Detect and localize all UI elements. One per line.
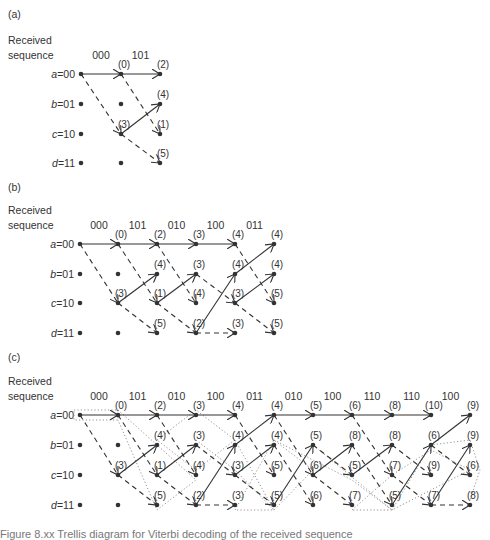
trellis-node — [390, 473, 395, 478]
trellis-node — [79, 161, 84, 166]
state-label: d=11 — [51, 499, 74, 511]
trellis-node — [116, 242, 121, 247]
path-metric: (8) — [389, 400, 401, 411]
path-metric: (8) — [349, 430, 361, 441]
trellis-node — [119, 102, 124, 107]
branch-input1 — [118, 303, 157, 333]
trellis-node — [272, 473, 277, 478]
trellis-node — [194, 413, 199, 418]
path-metric: (3) — [193, 229, 205, 240]
trellis-node — [78, 443, 83, 448]
received-codeword: 011 — [246, 390, 263, 402]
trellis-node — [272, 301, 277, 306]
path-metric: (4) — [271, 400, 283, 411]
received-codeword: 010 — [285, 390, 303, 402]
trellis-node — [155, 272, 160, 277]
received-codeword: 010 — [168, 390, 186, 402]
trellis-node — [311, 413, 316, 418]
path-metric: (4) — [232, 259, 244, 270]
path-metric: (3) — [232, 288, 244, 299]
trellis-node — [311, 503, 316, 508]
trellis-node — [158, 102, 163, 107]
path-metric: (3) — [118, 119, 130, 130]
path-metric: (7) — [389, 460, 401, 471]
path-metric: (9) — [467, 400, 479, 411]
branch-input1 — [81, 74, 121, 134]
trellis-node — [390, 413, 395, 418]
trellis-node — [194, 242, 199, 247]
trellis-node — [233, 301, 238, 306]
trellis-node — [233, 242, 238, 247]
branch-input1 — [80, 415, 118, 475]
received-label: Received — [8, 204, 52, 216]
path-metric: (3) — [193, 430, 205, 441]
state-label: c=10 — [51, 469, 74, 481]
branch-input1 — [121, 134, 160, 163]
received-codeword: 100 — [442, 390, 460, 402]
trellis-node — [429, 503, 434, 508]
trellis-node — [194, 301, 199, 306]
trellis-node — [155, 331, 160, 336]
trellis-node — [116, 413, 121, 418]
trellis-node — [78, 413, 83, 418]
state-label: c=10 — [52, 128, 75, 140]
received-codeword: 100 — [324, 390, 342, 402]
path-metric: (1) — [157, 119, 169, 130]
received-codeword: 101 — [129, 390, 147, 402]
path-metric: (4) — [154, 430, 166, 441]
trellis-node — [468, 503, 473, 508]
state-label: b=01 — [50, 439, 74, 451]
path-metric: (4) — [154, 259, 166, 270]
path-metric: (10) — [425, 400, 443, 411]
trellis-node — [233, 473, 238, 478]
trellis-node — [350, 503, 355, 508]
received-codeword: 101 — [132, 49, 150, 61]
trellis-node — [233, 331, 238, 336]
trellis-node — [155, 413, 160, 418]
state-label: d=11 — [51, 327, 74, 339]
received-label: sequence — [8, 49, 54, 61]
path-metric: (0) — [115, 229, 127, 240]
received-label: sequence — [8, 390, 54, 402]
received-codeword: 110 — [403, 390, 420, 402]
path-metric: (4) — [232, 229, 244, 240]
received-codeword: 000 — [90, 219, 108, 231]
trellis-panel: (a)Receivedsequence000101a=00b=01c=10d=1… — [8, 8, 169, 169]
path-metric: (1) — [154, 288, 166, 299]
state-label: a=00 — [51, 68, 75, 80]
trellis-node — [155, 503, 160, 508]
trellis-node — [78, 503, 83, 508]
path-metric: (4) — [271, 259, 283, 270]
trellis-node — [350, 413, 355, 418]
trellis-node — [233, 413, 238, 418]
path-metric: (5) — [349, 460, 361, 471]
trellis-node — [158, 161, 163, 166]
path-metric: (3) — [193, 400, 205, 411]
path-metric: (7) — [428, 490, 440, 501]
path-metric: (5) — [310, 430, 322, 441]
trellis-node — [429, 473, 434, 478]
trellis-node — [272, 331, 277, 336]
trellis-node — [155, 473, 160, 478]
path-metric: (8) — [389, 430, 401, 441]
branch-input1 — [80, 244, 118, 303]
trellis-node — [155, 242, 160, 247]
received-codeword: 101 — [129, 219, 147, 231]
trellis-node — [116, 272, 121, 277]
received-codeword: 100 — [207, 219, 225, 231]
trellis-panel: (b)Receivedsequence000101010100011a=00b=… — [8, 181, 283, 339]
trellis-node — [116, 301, 121, 306]
path-metric: (4) — [193, 288, 205, 299]
received-codeword: 110 — [364, 390, 381, 402]
trellis-node — [390, 443, 395, 448]
trellis-node — [116, 473, 121, 478]
path-metric: (6) — [310, 460, 322, 471]
path-metric: (3) — [232, 460, 244, 471]
trellis-node — [194, 331, 199, 336]
branch-input1 — [118, 475, 157, 505]
path-metric: (7) — [349, 490, 361, 501]
path-metric: (3) — [232, 318, 244, 329]
path-metric: (0) — [115, 400, 127, 411]
trellis-node — [119, 132, 124, 137]
trellis-node — [79, 102, 84, 107]
